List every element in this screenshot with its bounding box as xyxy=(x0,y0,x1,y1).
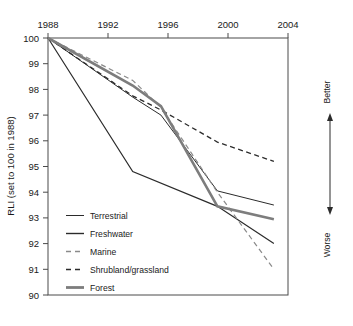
legend-item-forest[interactable]: Forest xyxy=(66,283,115,293)
direction-label-better: Better xyxy=(322,80,332,103)
y-tick-label: 100 xyxy=(23,33,39,44)
legend-label-freshwater: Freshwater xyxy=(90,229,133,239)
x-axis-ticks xyxy=(48,33,288,38)
legend: Terrestrial Freshwater Marine Shrubland/… xyxy=(66,211,169,293)
legend-item-marine[interactable]: Marine xyxy=(66,247,116,257)
direction-label-worse: Worse xyxy=(322,232,332,257)
legend-item-terrestrial[interactable]: Terrestrial xyxy=(66,211,128,221)
y-tick-label: 91 xyxy=(28,264,39,275)
y-tick-label: 93 xyxy=(28,212,39,223)
y-tick-label: 95 xyxy=(28,161,39,172)
y-axis-title: RLI (set to 100 in 1988) xyxy=(5,116,16,215)
x-tick-label: 2004 xyxy=(277,19,298,30)
y-tick-label: 97 xyxy=(28,110,39,121)
x-tick-label: 1992 xyxy=(97,19,118,30)
y-tick-label: 98 xyxy=(28,84,39,95)
legend-item-shrubland-grassland[interactable]: Shrubland/grassland xyxy=(66,265,169,275)
plot-frame xyxy=(48,38,288,295)
legend-label-forest: Forest xyxy=(90,283,115,293)
series-line-terrestrial xyxy=(48,38,274,205)
y-tick-label: 94 xyxy=(28,187,39,198)
legend-item-freshwater[interactable]: Freshwater xyxy=(66,229,133,239)
x-tick-label: 1988 xyxy=(37,19,58,30)
y-axis-tick-labels: 100 99 98 97 96 95 94 93 92 91 90 xyxy=(23,33,39,301)
direction-scale: Better Worse xyxy=(322,80,333,257)
double-headed-vertical-arrow-icon xyxy=(327,113,333,215)
y-tick-label: 90 xyxy=(28,290,39,301)
y-tick-label: 96 xyxy=(28,135,39,146)
legend-label-shrubland-grassland: Shrubland/grassland xyxy=(90,265,169,275)
x-tick-label: 1996 xyxy=(157,19,178,30)
y-tick-label: 92 xyxy=(28,238,39,249)
y-tick-label: 99 xyxy=(28,58,39,69)
chart-figure: 1988 1992 1996 2000 2004 100 99 98 97 xyxy=(0,0,353,326)
series-line-forest xyxy=(48,38,274,219)
x-axis-tick-labels: 1988 1992 1996 2000 2004 xyxy=(37,19,298,30)
rli-line-chart: 1988 1992 1996 2000 2004 100 99 98 97 xyxy=(0,0,353,326)
series-line-marine xyxy=(48,38,274,269)
x-tick-label: 2000 xyxy=(217,19,238,30)
series-group xyxy=(48,38,274,269)
y-axis-ticks xyxy=(43,38,48,295)
legend-label-terrestrial: Terrestrial xyxy=(90,211,128,221)
legend-label-marine: Marine xyxy=(90,247,116,257)
